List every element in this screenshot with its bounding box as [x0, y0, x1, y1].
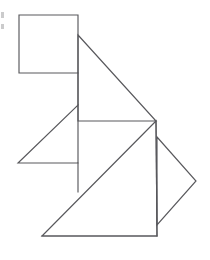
scan-artifact-lower [1, 24, 4, 29]
right-tail-triangle-shape [157, 137, 196, 225]
tangram-figure [0, 0, 210, 260]
scan-artifact-upper [1, 12, 4, 18]
large-lower-triangle-shape [42, 121, 157, 236]
large-upper-triangle-shape [78, 35, 156, 121]
head-square-shape [19, 15, 78, 73]
left-arm-triangle-shape [18, 105, 78, 163]
figure-canvas [0, 0, 210, 260]
